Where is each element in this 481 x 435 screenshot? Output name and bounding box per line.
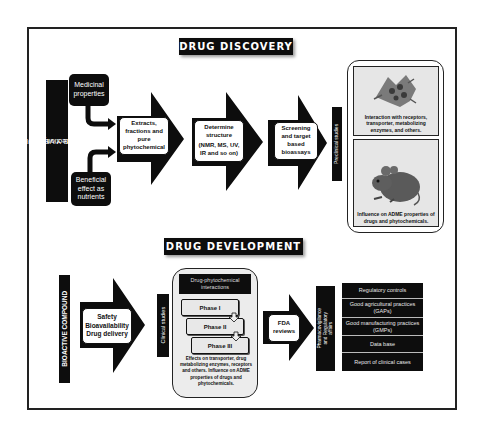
preclinical-studies-label: Preclinical studies: [332, 107, 342, 181]
determine-structure-step: Determine structure (NMR, MS, UV, IR and…: [194, 120, 244, 162]
beneficial-effect-box: Beneficial effect as nutrients: [71, 172, 111, 206]
structure-methods: (NMR, MS, UV, IR and so on): [197, 142, 241, 158]
frutas-verduras-label: FRUTAS Y VERDURAS(Selection): [46, 80, 68, 202]
mouse-icon: [368, 161, 424, 207]
regulatory-item: Good manufacturing practices (GMPs): [342, 318, 423, 336]
drug-delivery-line: Drug delivery: [86, 330, 128, 338]
mouse-caption: Influence on ADME properties of drugs an…: [356, 211, 436, 224]
pharmacovigilance-label: Pharmacovigilance and Regulatory affairs: [316, 286, 335, 371]
phase-down-arrows-icon: [229, 313, 241, 353]
drug-development-title: DRUG DEVELOPMENT: [164, 238, 303, 255]
preclinical-card-cells: Interaction with receptors, transporter,…: [353, 66, 439, 136]
structure-label: Determine structure: [197, 124, 241, 140]
regulatory-item: Report of clinical cases: [342, 353, 423, 371]
safety-line: Safety: [97, 313, 117, 321]
fda-reviews-step: FDA reviews: [268, 314, 300, 342]
bioavailability-line: Bioavailability: [85, 322, 129, 330]
screening-step: Screening and target based bioassays: [274, 122, 318, 160]
extracts-step: Extracts, fractions and pure phytochemic…: [119, 117, 169, 155]
regulatory-item: Data base: [342, 336, 423, 353]
safety-step: Safety Bioavailability Drug delivery: [82, 308, 132, 344]
regulatory-item: Good agricultural practices (GAPs): [342, 299, 423, 318]
regulatory-list: Regulatory controls Good agricultural pr…: [342, 283, 423, 371]
bioactive-compound-label: BIOACTIVE COMPOUND: [59, 275, 70, 383]
drug-interactions-header: Drug-phytochemical interactions: [179, 274, 251, 294]
preclinical-card-mouse: Influence on ADME properties of drugs an…: [353, 139, 439, 227]
cell-micrograph-icon: [370, 71, 422, 111]
clinical-studies-label: Clinical studies: [157, 294, 169, 357]
clinical-notes: Effects on transporter, drug metabolizin…: [176, 356, 256, 394]
medicinal-properties-box: Medicinal properties: [69, 74, 109, 106]
regulatory-item: Regulatory controls: [342, 283, 423, 299]
connector-arrows-icon: [80, 104, 120, 174]
cells-caption: Interaction with receptors, transporter,…: [356, 114, 436, 134]
drug-discovery-title: DRUG DISCOVERY: [179, 38, 293, 55]
